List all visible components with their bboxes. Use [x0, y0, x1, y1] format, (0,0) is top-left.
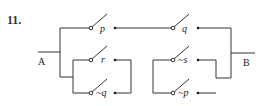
svg-text:q: q [182, 23, 187, 34]
switch-q: q [171, 14, 199, 34]
terminal-a-label: A [38, 56, 46, 67]
circuit-diagram: 11. A p q r [0, 0, 263, 106]
left-parallel-block: r ~q [60, 46, 131, 98]
switch-not-s: ~s [171, 46, 199, 65]
right-parallel-block: ~s ~p [153, 46, 231, 98]
switch-p: p [89, 14, 116, 34]
terminal-b-label: B [243, 57, 250, 68]
switch-r: r [89, 46, 116, 65]
switch-not-q: ~q [89, 79, 116, 98]
svg-text:~p: ~p [178, 87, 188, 98]
switch-not-p: ~p [171, 79, 199, 98]
svg-text:~q: ~q [96, 87, 106, 98]
svg-text:p: p [99, 23, 105, 34]
terminal-b: B [231, 53, 255, 68]
terminal-a: A [38, 52, 60, 67]
problem-number: 11. [7, 13, 21, 27]
svg-text:~s: ~s [178, 54, 187, 65]
svg-text:r: r [101, 54, 105, 65]
top-branch: p q [60, 14, 231, 34]
